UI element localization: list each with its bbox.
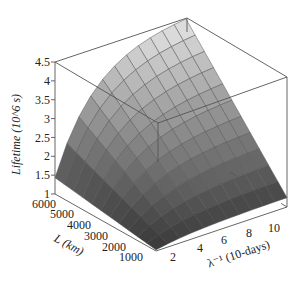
x-tick-2: 2 bbox=[170, 251, 176, 263]
x-tick-6: 6 bbox=[221, 234, 227, 246]
surface bbox=[55, 19, 287, 250]
z-axis-label: Lifetime (10^6 s) bbox=[10, 94, 22, 175]
z-tick-1-5: 1.5 bbox=[24, 169, 50, 181]
z-tick-2-5: 2.5 bbox=[24, 132, 50, 144]
y-tick-1000: 1000 bbox=[119, 251, 143, 263]
z-ticks bbox=[51, 62, 55, 194]
x-tick-8: 8 bbox=[246, 227, 252, 239]
x-tick-10: 10 bbox=[268, 222, 280, 234]
z-tick-2: 2 bbox=[24, 150, 50, 162]
z-tick-3-5: 3.5 bbox=[24, 94, 50, 106]
z-tick-4: 4 bbox=[24, 75, 50, 87]
z-tick-3: 3 bbox=[24, 113, 50, 125]
x-tick-4: 4 bbox=[197, 242, 203, 254]
z-tick-4-5: 4.5 bbox=[24, 56, 50, 68]
